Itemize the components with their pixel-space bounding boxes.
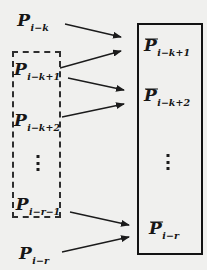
- label-pbar-i-r: Pi−r: [149, 220, 179, 237]
- label-p-i-k1-base: P: [14, 59, 27, 79]
- label-pbar-i-k1-sub: i−k+1: [157, 47, 190, 58]
- arrow-pik2-to-pbar-ik2: [62, 104, 124, 117]
- label-pbar-i-k1: Pi−k+1: [144, 37, 190, 54]
- label-p-i-k1: Pi−k+1: [14, 61, 60, 78]
- label-p-i-k1-sub: i−k+1: [27, 71, 60, 82]
- arrow-pik1-to-pbar-ik2: [68, 78, 124, 90]
- label-p-i-k2: Pi−k+2: [14, 112, 60, 129]
- arrow-pik1-to-pbar-ik1: [60, 51, 121, 68]
- label-p-i-r1-sub: i−r−1: [29, 206, 60, 217]
- label-pbar-i-k2-sub: i−k+2: [157, 97, 190, 108]
- label-p-i-r1-base: P: [16, 194, 29, 214]
- arrow-pik-to-pbar-ik1: [65, 24, 121, 37]
- label-p-i-r-base: P: [19, 243, 32, 263]
- label-pbar-i-k1-base: P: [144, 35, 157, 55]
- label-p-i-r: Pi−r: [19, 245, 49, 262]
- label-p-i-k2-sub: i−k+2: [27, 122, 60, 133]
- arrow-pir-to-pbar-ir: [62, 237, 129, 252]
- left-vertical-ellipsis-icon: [37, 155, 40, 171]
- label-p-i-r1: Pi−r−1: [16, 196, 60, 213]
- label-p-i-k-sub: i−k: [31, 22, 49, 33]
- label-pbar-i-k2-base: P: [144, 85, 157, 105]
- figure-canvas: Pi−k Pi−k+1 Pi−k+2 Pi−r−1 Pi−r Pi−k+1 Pi…: [0, 0, 207, 270]
- label-p-i-k: Pi−k: [17, 12, 48, 29]
- arrow-pir1-to-pbar-ir: [70, 212, 129, 225]
- right-vertical-ellipsis-icon: [167, 154, 170, 170]
- label-p-i-r-sub: i−r: [32, 255, 49, 266]
- label-pbar-i-k2: Pi−k+2: [144, 87, 190, 104]
- label-p-i-k-base: P: [17, 10, 30, 30]
- label-pbar-i-r-sub: i−r: [162, 230, 179, 241]
- label-pbar-i-r-base: P: [149, 218, 162, 238]
- label-p-i-k2-base: P: [14, 110, 27, 130]
